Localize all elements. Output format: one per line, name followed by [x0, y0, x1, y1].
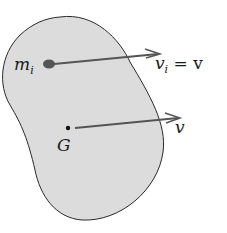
label-G: G [57, 135, 71, 155]
rigid-body-outline [3, 16, 164, 220]
rigid-body-diagram: mi vi = v G v [0, 0, 227, 233]
label-v: v [175, 117, 185, 137]
label-vi-equals-v: vi = v [155, 53, 203, 76]
center-of-mass-point [66, 126, 70, 130]
particle-mi [43, 60, 55, 69]
